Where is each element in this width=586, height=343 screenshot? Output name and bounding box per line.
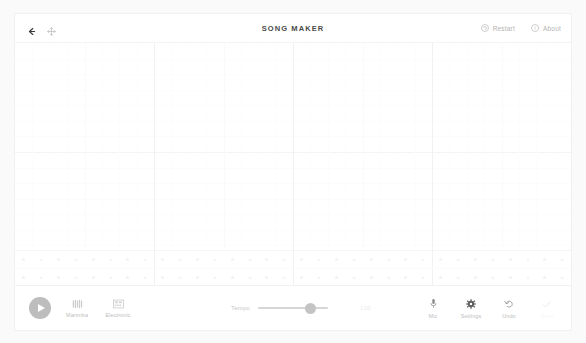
percussion-cell-marker[interactable]: [387, 258, 391, 261]
percussion-cell-marker[interactable]: [282, 276, 286, 279]
percussion-cell-marker[interactable]: [178, 258, 182, 261]
percussion-cell-marker[interactable]: [196, 276, 199, 279]
percussion-cell-marker[interactable]: [196, 258, 199, 261]
percussion-cell-marker[interactable]: [474, 276, 477, 279]
percussion-cell-marker[interactable]: [317, 276, 321, 279]
percussion-cell-marker[interactable]: [300, 276, 303, 279]
app-root: SONG MAKER Restart: [0, 0, 586, 343]
tempo-slider-knob[interactable]: [305, 303, 316, 314]
percussion-cell-marker[interactable]: [282, 258, 286, 261]
play-button[interactable]: [29, 297, 51, 319]
percussion-cell-marker[interactable]: [421, 276, 425, 279]
instrument-electronic[interactable]: Electronic: [103, 298, 133, 318]
percussion-cell-marker[interactable]: [126, 276, 129, 279]
grid-column-line: [85, 43, 86, 251]
tempo-value: 120: [360, 305, 371, 311]
grid-column-line: [397, 43, 398, 251]
percussion-grid[interactable]: [15, 250, 571, 285]
percussion-cell-marker[interactable]: [456, 276, 460, 279]
settings-button[interactable]: Settings: [459, 298, 483, 319]
percussion-cell-marker[interactable]: [352, 276, 356, 279]
about-button[interactable]: About: [531, 24, 561, 32]
percussion-cell-marker[interactable]: [456, 258, 460, 261]
save-button[interactable]: Save: [535, 298, 559, 319]
percussion-cell-marker[interactable]: [439, 258, 442, 261]
tempo-slider[interactable]: [258, 302, 328, 314]
mic-button[interactable]: Mic: [421, 298, 445, 319]
sequencer-stage[interactable]: [15, 43, 571, 285]
back-arrow-icon[interactable]: [26, 23, 37, 34]
restart-button[interactable]: Restart: [481, 24, 515, 32]
percussion-row-2[interactable]: [15, 268, 571, 285]
percussion-cell-marker[interactable]: [39, 258, 43, 261]
song-maker-card: SONG MAKER Restart: [14, 13, 572, 331]
about-info-icon: [531, 24, 539, 32]
percussion-cell-marker[interactable]: [509, 258, 512, 261]
percussion-cell-marker[interactable]: [317, 258, 321, 261]
percussion-cell-marker[interactable]: [213, 276, 217, 279]
percussion-cell-marker[interactable]: [248, 276, 252, 279]
percussion-cell-marker[interactable]: [335, 258, 338, 261]
percussion-cell-marker[interactable]: [491, 258, 495, 261]
percussion-cell-marker[interactable]: [213, 258, 217, 261]
percussion-cell-marker[interactable]: [509, 276, 512, 279]
percussion-cell-marker[interactable]: [560, 258, 564, 261]
percussion-cell-marker[interactable]: [300, 258, 303, 261]
percussion-cell-marker[interactable]: [74, 276, 78, 279]
tempo-slider-track: [258, 307, 328, 309]
percussion-cell-marker[interactable]: [421, 258, 425, 261]
percussion-cell-marker[interactable]: [265, 276, 268, 279]
percussion-row-1[interactable]: [15, 251, 571, 268]
percussion-cell-marker[interactable]: [22, 276, 25, 279]
percussion-cell-marker[interactable]: [526, 276, 530, 279]
percussion-cell-marker[interactable]: [126, 258, 129, 261]
undo-arrow-icon: [504, 298, 514, 310]
tempo-label: Tempo: [231, 305, 250, 311]
percussion-cell-marker[interactable]: [387, 276, 391, 279]
percussion-cell-marker[interactable]: [74, 258, 78, 261]
percussion-cell-marker[interactable]: [474, 258, 477, 261]
move-crosshair-icon[interactable]: [46, 23, 57, 34]
undo-button[interactable]: Undo: [497, 298, 521, 319]
percussion-cell-marker[interactable]: [39, 276, 43, 279]
percussion-cell-marker[interactable]: [92, 258, 95, 261]
marimba-bars-icon: [72, 298, 83, 309]
instrument-marimba[interactable]: Marimba: [62, 298, 92, 318]
percussion-cell-marker[interactable]: [265, 258, 268, 261]
grid-bar-line: [154, 43, 155, 251]
save-check-icon: [542, 298, 552, 310]
percussion-cell-marker[interactable]: [370, 276, 373, 279]
percussion-cell-marker[interactable]: [57, 276, 60, 279]
percussion-cell-marker[interactable]: [526, 258, 530, 261]
percussion-cell-marker[interactable]: [543, 258, 546, 261]
percussion-cell-marker[interactable]: [109, 276, 113, 279]
save-label: Save: [541, 313, 554, 319]
percussion-cell-marker[interactable]: [248, 258, 252, 261]
grid-column-line: [536, 43, 537, 251]
percussion-cell-marker[interactable]: [109, 258, 113, 261]
restart-label: Restart: [493, 25, 515, 32]
percussion-cell-marker[interactable]: [57, 258, 60, 261]
percussion-cell-marker[interactable]: [543, 276, 546, 279]
settings-label: Settings: [461, 313, 482, 319]
percussion-cell-marker[interactable]: [22, 258, 25, 261]
percussion-cell-marker[interactable]: [439, 276, 442, 279]
percussion-cell-marker[interactable]: [143, 258, 147, 261]
percussion-cell-marker[interactable]: [143, 276, 147, 279]
grid-column-line: [345, 43, 346, 251]
percussion-cell-marker[interactable]: [92, 276, 95, 279]
percussion-cell-marker[interactable]: [178, 276, 182, 279]
percussion-cell-marker[interactable]: [404, 276, 407, 279]
percussion-cell-marker[interactable]: [161, 258, 164, 261]
percussion-cell-marker[interactable]: [352, 258, 356, 261]
percussion-cell-marker[interactable]: [560, 276, 564, 279]
melody-grid[interactable]: [15, 43, 571, 251]
percussion-cell-marker[interactable]: [491, 276, 495, 279]
percussion-cell-marker[interactable]: [161, 276, 164, 279]
percussion-cell-marker[interactable]: [404, 258, 407, 261]
percussion-cell-marker[interactable]: [231, 258, 234, 261]
percussion-cell-marker[interactable]: [370, 258, 373, 261]
grid-column-line: [467, 43, 468, 251]
percussion-cell-marker[interactable]: [335, 276, 338, 279]
percussion-cell-marker[interactable]: [231, 276, 234, 279]
